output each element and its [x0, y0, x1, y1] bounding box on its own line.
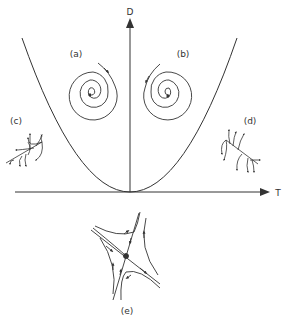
region-a-label: (a)	[70, 49, 83, 59]
spiral-a-icon	[69, 63, 117, 120]
d-axis-arrow-icon	[126, 18, 134, 28]
region-b-label: (b)	[177, 49, 190, 59]
saddle-icon	[91, 212, 160, 300]
region-c-label: (c)	[10, 116, 22, 126]
spiral-b-icon	[144, 64, 192, 120]
d-axis	[126, 18, 134, 192]
t-axis-arrow-icon	[260, 188, 270, 196]
stable-node-icon	[6, 134, 42, 166]
region-e-label: (e)	[121, 306, 134, 316]
diagram-canvas: D T (a) (b) (c) (d)	[0, 0, 285, 319]
d-axis-label: D	[127, 7, 134, 17]
t-axis	[15, 188, 270, 196]
unstable-node-icon	[222, 130, 261, 172]
t-axis-label: T	[274, 188, 281, 198]
region-d-label: (d)	[244, 116, 257, 126]
